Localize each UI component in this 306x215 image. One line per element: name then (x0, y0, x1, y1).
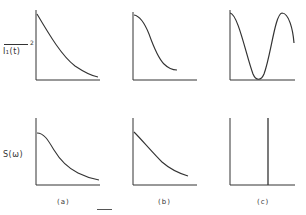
curve (134, 15, 177, 70)
plot-top-a (36, 10, 100, 80)
curve (37, 133, 99, 180)
row-label-top-superscript: 2 (30, 39, 34, 46)
plot-bottom-b (133, 118, 197, 185)
plots-canvas (0, 0, 306, 215)
bottom-rule (97, 209, 112, 210)
overbar (4, 44, 28, 45)
curve (37, 14, 98, 77)
row-label-bottom: S(ω) (3, 150, 23, 159)
row-label-top-text: I₁(t) (3, 47, 20, 56)
plot-top-b (133, 12, 197, 80)
panel-label-b: (b) (158, 198, 171, 206)
plot-bottom-c (230, 118, 295, 185)
figure: I₁(t) 2 S(ω) (a) (b) (c) (0, 0, 306, 215)
panel-label-a: (a) (57, 198, 70, 206)
row-label-top: I₁(t) 2 (3, 47, 20, 56)
plot-top-c (230, 10, 295, 80)
curve (230, 13, 294, 79)
plot-bottom-a (36, 118, 100, 185)
curve (134, 132, 188, 176)
panel-label-c: (c) (257, 198, 269, 206)
